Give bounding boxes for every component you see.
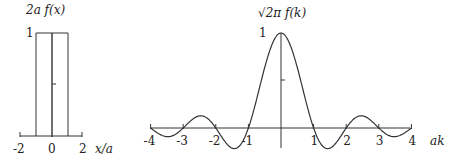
- right-x-tick: -1: [241, 135, 253, 147]
- left-x-tick: 2: [79, 143, 87, 155]
- right-x-tick: 1: [311, 135, 319, 147]
- right-y-tick-1: 1: [259, 27, 267, 39]
- right-x-label: ak: [430, 135, 444, 147]
- left-y-label: 2a f(x): [26, 4, 65, 16]
- right-x-tick: 2: [343, 135, 351, 147]
- right-x-tick: -2: [209, 135, 221, 147]
- right-y-label: √2π f(k): [258, 7, 306, 19]
- left-y-tick-1: 1: [26, 27, 34, 39]
- sinc-function-plot: [150, 33, 411, 149]
- right-x-tick: -3: [176, 135, 188, 147]
- left-x-label: x/a: [95, 143, 113, 155]
- right-x-tick: 4: [408, 135, 416, 147]
- figure-canvas: [0, 0, 454, 160]
- left-x-tick: -2: [13, 143, 25, 155]
- rect-function-plot: [20, 33, 82, 137]
- right-x-tick: -4: [144, 135, 156, 147]
- right-x-tick: 3: [376, 135, 384, 147]
- left-x-tick: 0: [48, 143, 56, 155]
